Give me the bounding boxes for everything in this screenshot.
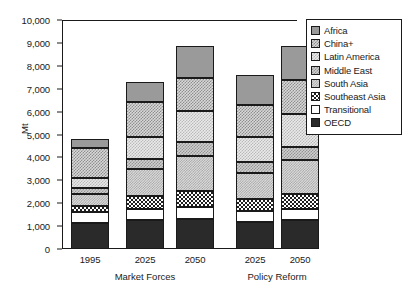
legend-item-label: Southeast Asia	[324, 91, 385, 102]
bar-2025-1	[126, 82, 164, 249]
y-axis-tick-label: 4,000	[27, 152, 50, 163]
legend-item-latin-america[interactable]: Latin America	[311, 50, 397, 63]
y-axis-tick	[57, 249, 62, 250]
bar-segment-oecd	[71, 223, 109, 249]
bar-segment-transitional	[236, 211, 274, 222]
y-axis-tick-label: 5,000	[27, 129, 50, 140]
legend-item-label: OECD	[324, 117, 351, 128]
legend-item-label: Middle East	[324, 65, 372, 76]
bar-segment-latin-america	[236, 137, 274, 162]
bar-1995-0	[71, 139, 109, 249]
y-axis-tick	[57, 157, 62, 158]
x-axis-tick-label: 2025	[117, 254, 173, 265]
bar-segment-latin-america	[71, 178, 109, 188]
y-axis-tick	[57, 111, 62, 112]
y-axis-tick	[57, 134, 62, 135]
x-axis: 19952025205020252050Market ForcesPolicy …	[62, 250, 297, 290]
transitional-swatch-icon	[311, 105, 320, 114]
legend-item-label: China+	[324, 38, 353, 49]
x-axis-tick-label: 2050	[167, 254, 223, 265]
oecd-swatch-icon	[311, 118, 320, 127]
legend-item-label: Transitional	[324, 104, 371, 115]
bar-segment-africa	[71, 139, 109, 148]
x-axis-group-label: Market Forces	[85, 271, 205, 282]
y-axis-tick-label: 9,000	[27, 37, 50, 48]
y-axis: 10,0009,0008,0007,0006,0005,0004,0003,00…	[0, 20, 56, 249]
bar-segment-china-	[71, 148, 109, 178]
stacked-bar-chart: 10,0009,0008,0007,0006,0005,0004,0003,00…	[0, 0, 409, 303]
bar-segment-middle-east	[176, 142, 214, 156]
bar-segment-southeast-asia	[281, 194, 319, 209]
x-axis-tick-label: 1995	[62, 254, 118, 265]
bar-segment-africa	[176, 46, 214, 78]
bar-segment-oecd	[236, 222, 274, 249]
china-swatch-icon	[311, 39, 320, 48]
y-axis-title: Mt	[19, 123, 30, 134]
bar-segment-africa	[236, 75, 274, 105]
southeast-asia-swatch-icon	[311, 92, 320, 101]
legend-item-southeast-asia[interactable]: Southeast Asia	[311, 90, 397, 103]
bar-segment-oecd	[126, 220, 164, 249]
south-asia-swatch-icon	[311, 79, 320, 88]
y-axis-tick-label: 1,000	[27, 221, 50, 232]
x-axis-group-label: Policy Reform	[217, 271, 337, 282]
bar-segment-transitional	[71, 212, 109, 222]
bar-segment-southeast-asia	[126, 196, 164, 209]
legend-item-label: Latin America	[324, 51, 380, 62]
bar-segment-china-	[176, 78, 214, 111]
y-axis-tick-label: 3,000	[27, 175, 50, 186]
bar-segment-southeast-asia	[176, 191, 214, 207]
y-axis-tick	[57, 42, 62, 43]
bar-2050-2	[176, 46, 214, 249]
bar-segment-oecd	[176, 219, 214, 249]
bar-segment-china-	[236, 105, 274, 137]
legend: AfricaChina+Latin AmericaMiddle EastSout…	[306, 19, 402, 135]
legend-item-label: South Asia	[324, 78, 368, 89]
y-axis-tick	[57, 226, 62, 227]
bar-segment-transitional	[126, 209, 164, 220]
y-axis-tick	[57, 65, 62, 66]
bar-segment-transitional	[281, 209, 319, 220]
legend-item-label: Africa	[324, 25, 347, 36]
bar-segment-southeast-asia	[236, 199, 274, 210]
bar-segment-latin-america	[176, 111, 214, 142]
middle-east-swatch-icon	[311, 66, 320, 75]
y-axis-tick	[57, 203, 62, 204]
bar-segment-middle-east	[281, 147, 319, 160]
legend-item-oecd[interactable]: OECD	[311, 116, 397, 129]
bar-segment-south-asia	[281, 160, 319, 194]
bars-layer	[62, 20, 297, 249]
legend-item-africa[interactable]: Africa	[311, 24, 397, 37]
bar-segment-south-asia	[176, 156, 214, 191]
bar-segment-south-asia	[126, 169, 164, 196]
legend-item-transitional[interactable]: Transitional	[311, 103, 397, 116]
y-axis-tick	[57, 88, 62, 89]
bar-2025-3	[236, 75, 274, 249]
y-axis-tick-label: 2,000	[27, 198, 50, 209]
y-axis-tick	[57, 20, 62, 21]
bar-segment-middle-east	[71, 188, 109, 194]
y-axis-tick	[57, 180, 62, 181]
y-axis-tick-label: 10,000	[22, 15, 50, 26]
y-axis-tick-label: 8,000	[27, 60, 50, 71]
africa-swatch-icon	[311, 26, 320, 35]
bar-segment-southeast-asia	[71, 206, 109, 213]
y-axis-tick-label: 7,000	[27, 83, 50, 94]
legend-item-middle-east[interactable]: Middle East	[311, 64, 397, 77]
bar-segment-south-asia	[236, 173, 274, 199]
bar-segment-africa	[126, 82, 164, 103]
latin-america-swatch-icon	[311, 52, 320, 61]
y-axis-tick-label: 6,000	[27, 106, 50, 117]
x-axis-tick-label: 2050	[272, 254, 328, 265]
y-axis-tick-label: 0	[45, 244, 50, 255]
bar-segment-transitional	[176, 207, 214, 219]
bar-segment-middle-east	[126, 159, 164, 169]
bar-segment-south-asia	[71, 194, 109, 205]
bar-segment-middle-east	[236, 162, 274, 172]
bar-segment-oecd	[281, 220, 319, 249]
legend-item-south-asia[interactable]: South Asia	[311, 77, 397, 90]
bar-segment-latin-america	[126, 137, 164, 159]
bar-segment-china-	[126, 102, 164, 136]
legend-item-china-[interactable]: China+	[311, 37, 397, 50]
